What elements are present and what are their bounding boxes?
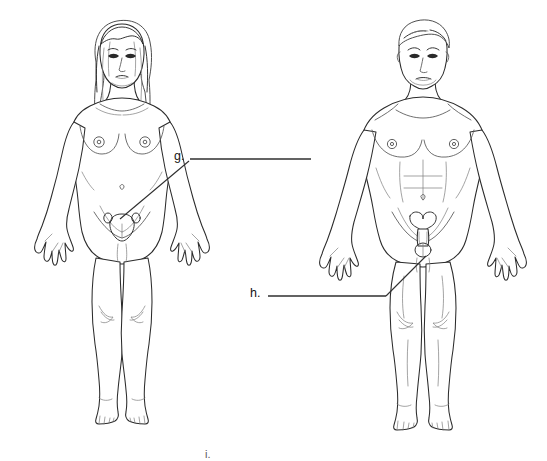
female-figure-container [0,0,280,461]
label-i: i. [205,449,211,460]
label-h: h. [250,287,260,300]
anatomy-worksheet: g. h. i. [0,0,547,461]
male-figure-container [300,0,547,461]
label-g: g. [174,150,184,163]
male-anatomical-figure [300,0,547,461]
female-anatomical-figure [0,0,280,461]
